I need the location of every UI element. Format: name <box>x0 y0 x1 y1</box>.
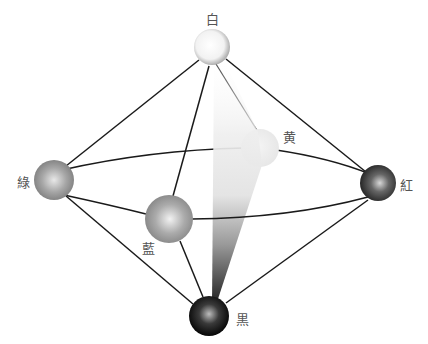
edge-white-green <box>66 60 199 166</box>
label-blue: 藍 <box>142 241 155 256</box>
white-sphere <box>194 29 230 65</box>
red-sphere <box>360 165 396 201</box>
edge-yellow-red <box>276 150 370 174</box>
black-sphere <box>189 296 229 336</box>
label-white: 白 <box>206 12 219 27</box>
label-red: 紅 <box>400 178 413 193</box>
green-sphere <box>34 160 74 200</box>
edge-black-red <box>226 200 368 303</box>
label-black: 黒 <box>236 312 249 327</box>
label-yellow: 黄 <box>283 130 296 145</box>
label-green: 綠 <box>17 175 30 190</box>
color-solid-diagram: 白 黄 綠 紅 藍 黒 <box>0 0 428 344</box>
edge-white-blue <box>173 66 209 196</box>
blue-sphere <box>145 195 193 243</box>
edge-black-blue <box>180 241 203 297</box>
gray-axis-wedge <box>212 62 262 305</box>
